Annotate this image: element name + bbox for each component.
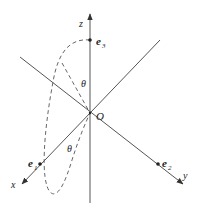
origin-label: O	[96, 110, 104, 122]
dashed-rotation-curve	[44, 40, 90, 194]
e1-point	[38, 162, 42, 166]
e3-point	[88, 38, 92, 42]
svg-text:1: 1	[34, 164, 38, 172]
x-axis-label: x	[10, 179, 16, 190]
svg-text:2: 2	[168, 164, 172, 172]
theta-label-lower: θ	[67, 143, 72, 154]
e1-label: e 1	[28, 157, 38, 172]
svg-text:e: e	[162, 157, 167, 169]
e3-label: e 3	[96, 35, 106, 50]
e2-point	[156, 162, 160, 166]
svg-text:e: e	[96, 35, 101, 47]
y-axis-label: y	[182, 170, 188, 181]
e2-label: e 2	[162, 157, 172, 172]
svg-text:3: 3	[101, 42, 106, 50]
x-axis	[22, 40, 160, 184]
theta-label-upper: θ	[81, 78, 86, 89]
svg-text:e: e	[28, 157, 33, 169]
origin-point	[89, 112, 91, 114]
coordinate-diagram: z x y O e 3 e 1 e 2 θ θ	[0, 0, 200, 210]
z-axis-label: z	[78, 18, 83, 29]
